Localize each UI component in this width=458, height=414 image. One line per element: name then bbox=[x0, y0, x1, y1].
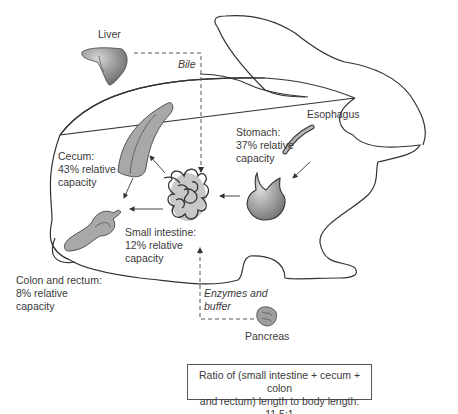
colon-rectum-label: Colon and rectum: 8% relative capacity bbox=[16, 274, 102, 313]
pancreas-label: Pancreas bbox=[245, 330, 289, 343]
esophagus-label: Esophagus bbox=[307, 108, 360, 121]
cecum-organ bbox=[118, 103, 173, 177]
liver-label: Liver bbox=[98, 28, 121, 41]
rabbit-diagram bbox=[0, 0, 458, 414]
colon-rectum-organ bbox=[64, 210, 121, 251]
liver-organ bbox=[82, 48, 127, 85]
small-intestine-organ bbox=[164, 169, 208, 221]
rabbit-ear-inner bbox=[218, 28, 305, 97]
bile-label: Bile bbox=[178, 58, 196, 71]
enzymes-buffer-label: Enzymes and buffer bbox=[204, 287, 268, 313]
stomach-organ bbox=[247, 173, 285, 220]
stomach-label: Stomach: 37% relative capacity bbox=[236, 126, 294, 165]
cecum-label: Cecum: 43% relative capacity bbox=[58, 150, 116, 189]
ratio-note-box: Ratio of (small intestine + cecum + colo… bbox=[187, 364, 372, 400]
small-intestine-label: Small intestine: 12% relative capacity bbox=[125, 226, 196, 265]
